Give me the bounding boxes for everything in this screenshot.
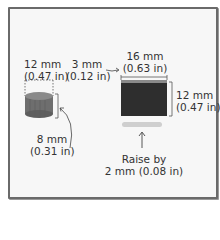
block-height-in: (0.47 in) bbox=[176, 101, 220, 113]
block-width-in: (0.63 in) bbox=[122, 62, 168, 74]
gap-mm: 3 mm bbox=[66, 58, 108, 70]
cylinder-height-label: 8 mm (0.31 in) bbox=[30, 133, 74, 157]
gap-in: (0.12 in) bbox=[66, 70, 108, 82]
raise-line1: Raise by bbox=[104, 153, 184, 165]
gap-label: 3 mm (0.12 in) bbox=[66, 58, 108, 82]
cylinder-diameter-label: 12 mm (0.47 in) bbox=[24, 58, 58, 82]
cylinder-height-in: (0.31 in) bbox=[30, 145, 74, 157]
block-width-mm: 16 mm bbox=[122, 50, 168, 62]
cylinder-diameter-mm: 12 mm bbox=[24, 58, 58, 70]
raise-label: Raise by 2 mm (0.08 in) bbox=[104, 153, 184, 177]
block-height-bracket bbox=[169, 82, 172, 116]
block-shape bbox=[121, 80, 167, 116]
block-width-guide bbox=[121, 75, 167, 80]
block-height-mm: 12 mm bbox=[176, 89, 220, 101]
block-width-label: 16 mm (0.63 in) bbox=[122, 50, 168, 74]
raise-line2: 2 mm (0.08 in) bbox=[104, 165, 184, 177]
cylinder-diameter-in: (0.47 in) bbox=[24, 70, 58, 82]
cylinder-shape bbox=[25, 92, 53, 118]
block-height-label: 12 mm (0.47 in) bbox=[176, 89, 220, 113]
raise-arrow bbox=[139, 132, 145, 148]
cylinder-height-mm: 8 mm bbox=[30, 133, 74, 145]
raise-shadow bbox=[122, 122, 162, 127]
